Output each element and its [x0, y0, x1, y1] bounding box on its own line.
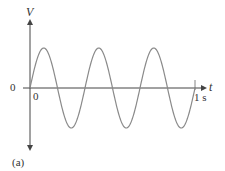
- v-axis-label: V: [26, 6, 33, 18]
- t-axis-label: t: [209, 81, 212, 93]
- figure-caption: (a): [12, 157, 24, 168]
- origin-left-label: 0: [10, 82, 16, 93]
- end-time-label: 1 s: [194, 92, 207, 103]
- chart-canvas: [0, 0, 225, 171]
- origin-below-label: 0: [33, 91, 39, 102]
